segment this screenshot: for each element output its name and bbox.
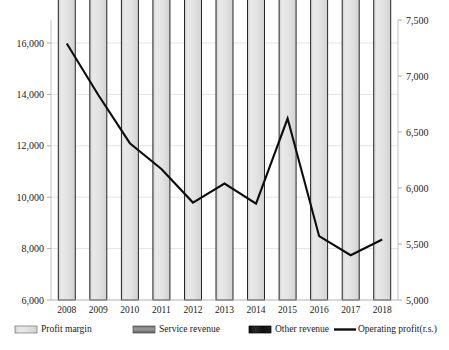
- bar-2009[interactable]: [90, 0, 107, 300]
- bar-segment-profit-margin-2010[interactable]: [121, 0, 138, 300]
- right-tick-label-5000: 5,000: [406, 295, 429, 306]
- bar-segment-profit-margin-2016[interactable]: [311, 0, 328, 300]
- x-tick-label-2015: 2015: [278, 305, 297, 315]
- left-tick-label-6000: 6,000: [22, 295, 45, 306]
- x-tick-label-2011: 2011: [152, 305, 171, 315]
- chart-container: 6,000 8,000 10,000 12,000 14,000 16,000 …: [0, 0, 449, 350]
- right-tick-label-5500: 5,500: [406, 239, 429, 250]
- x-tick-label-2018: 2018: [373, 305, 392, 315]
- profit-margin-swatch: [15, 326, 37, 333]
- x-tick-label-2010: 2010: [120, 305, 139, 315]
- right-tick-label-7500: 7,500: [406, 15, 429, 26]
- bar-2010[interactable]: [121, 0, 138, 300]
- bar-segment-profit-margin-2011[interactable]: [153, 0, 170, 300]
- x-tick-label-2008: 2008: [57, 305, 76, 315]
- x-tick-label-2014: 2014: [247, 305, 266, 315]
- right-tick-label-7000: 7,000: [406, 71, 429, 82]
- left-tick-label-14000: 14,000: [17, 89, 45, 100]
- legend-label-other-revenue: Other revenue: [275, 324, 329, 334]
- x-tick-label-2016: 2016: [310, 305, 329, 315]
- legend-label-service-revenue: Service revenue: [159, 324, 220, 334]
- bar-segment-profit-margin-2009[interactable]: [90, 0, 107, 300]
- x-axis-tick-labels: 2008200920102011201220132014201520162017…: [57, 305, 392, 315]
- x-tick-label-2013: 2013: [215, 305, 234, 315]
- legend-label-profit-margin: Profit margin: [41, 324, 92, 334]
- bar-2013[interactable]: [216, 0, 233, 300]
- bar-2012[interactable]: [184, 0, 201, 300]
- x-tick-label-2012: 2012: [183, 305, 202, 315]
- bar-2016[interactable]: [311, 0, 328, 300]
- chart-canvas: 6,000 8,000 10,000 12,000 14,000 16,000 …: [0, 0, 449, 350]
- right-tick-label-6500: 6,500: [406, 127, 429, 138]
- x-tick-label-2009: 2009: [89, 305, 108, 315]
- bar-segment-profit-margin-2015[interactable]: [279, 0, 296, 300]
- left-tick-label-16000: 16,000: [17, 38, 45, 49]
- right-tick-label-6000: 6,000: [406, 183, 429, 194]
- left-tick-label-8000: 8,000: [22, 243, 45, 254]
- service-revenue-swatch: [133, 326, 155, 333]
- other-revenue-swatch: [249, 326, 271, 333]
- bar-segment-profit-margin-2014[interactable]: [248, 0, 265, 300]
- bar-2015[interactable]: [279, 0, 296, 300]
- bar-segment-profit-margin-2012[interactable]: [184, 0, 201, 300]
- left-tick-label-10000: 10,000: [17, 192, 45, 203]
- left-tick-label-12000: 12,000: [17, 140, 45, 151]
- bar-segment-profit-margin-2018[interactable]: [374, 0, 391, 300]
- bar-2011[interactable]: [153, 0, 170, 300]
- bar-2014[interactable]: [248, 0, 265, 300]
- bar-segment-profit-margin-2013[interactable]: [216, 0, 233, 300]
- x-tick-label-2017: 2017: [341, 305, 360, 315]
- legend-label-operating-profit: Operating profit(r.s.): [358, 324, 437, 335]
- bar-2018[interactable]: [374, 0, 391, 300]
